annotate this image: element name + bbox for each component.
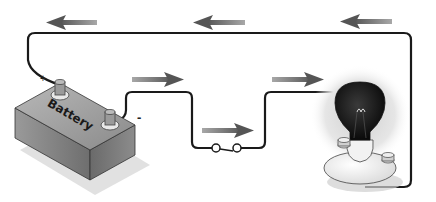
negative-symbol: -: [137, 110, 141, 125]
arrow-right-icon: [272, 72, 324, 87]
arrow-left-icon: [193, 15, 245, 30]
light-bulb: [310, 65, 410, 192]
positive-symbol: +: [40, 73, 46, 84]
circuit-diagram: + -: [0, 0, 436, 202]
switch: [212, 144, 241, 152]
arrow-right-icon: [202, 123, 254, 138]
arrow-left-icon: [340, 14, 392, 29]
arrow-right-icon: [132, 72, 184, 87]
arrow-left-icon: [46, 15, 97, 30]
